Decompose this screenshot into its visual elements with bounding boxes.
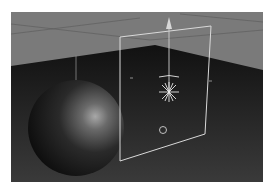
marker-left <box>130 77 133 79</box>
sphere-object[interactable] <box>28 80 124 176</box>
marker-right <box>209 80 212 82</box>
3d-viewport[interactable]: 3D Viewport <box>11 12 263 182</box>
